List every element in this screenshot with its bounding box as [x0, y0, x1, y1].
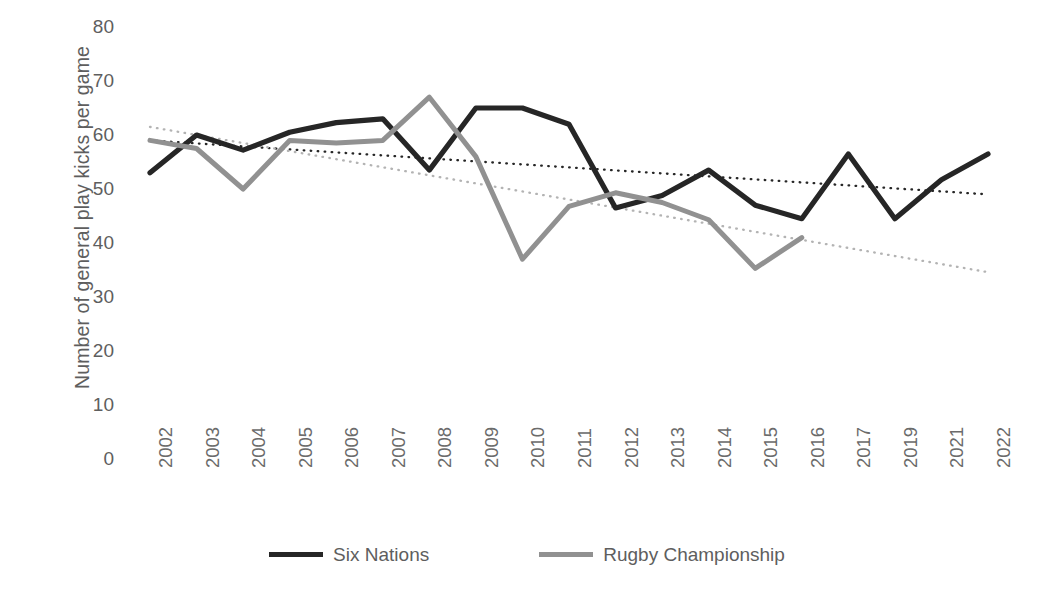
x-tick-label: 2017 — [855, 448, 874, 468]
chart-legend: Six NationsRugby Championship — [0, 545, 1054, 564]
x-tick-label: 2013 — [669, 448, 688, 468]
x-tick-label: 2021 — [948, 448, 967, 468]
x-tick-label: 2006 — [343, 448, 362, 468]
chart-container: Number of general play kicks per game 80… — [0, 0, 1054, 605]
x-tick-label: 2014 — [716, 448, 735, 468]
x-tick-label: 2005 — [297, 448, 316, 468]
legend-item[interactable]: Rugby Championship — [539, 545, 785, 564]
legend-label: Six Nations — [333, 545, 429, 564]
legend-line-swatch-icon — [539, 552, 593, 557]
x-tick-label: 2019 — [902, 448, 921, 468]
x-tick-label: 2002 — [157, 448, 176, 468]
legend-line-swatch-icon — [269, 552, 323, 557]
x-tick-label: 2016 — [809, 448, 828, 468]
x-axis-tick-labels: 2002200320042005200620072008200920102011… — [0, 0, 1054, 605]
legend-label: Rugby Championship — [603, 545, 785, 564]
x-tick-label: 2007 — [390, 448, 409, 468]
x-tick-label: 2003 — [204, 448, 223, 468]
x-tick-label: 2009 — [483, 448, 502, 468]
x-tick-label: 2004 — [250, 448, 269, 468]
x-tick-label: 2012 — [623, 448, 642, 468]
x-tick-label: 2015 — [762, 448, 781, 468]
x-tick-label: 2008 — [436, 448, 455, 468]
x-tick-label: 2011 — [576, 448, 595, 468]
x-tick-label: 2022 — [995, 448, 1014, 468]
legend-item[interactable]: Six Nations — [269, 545, 429, 564]
x-tick-label: 2010 — [529, 448, 548, 468]
